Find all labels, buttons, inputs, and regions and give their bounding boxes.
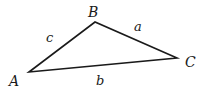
- vertex-label-c: C: [185, 54, 196, 70]
- triangle-diagram: A B C a b c: [0, 0, 202, 91]
- side-label-c: c: [46, 30, 54, 45]
- side-label-b: b: [96, 73, 104, 88]
- vertex-label-b: B: [87, 4, 98, 20]
- triangle-svg: A B C a b c: [0, 0, 202, 91]
- side-label-a: a: [134, 19, 142, 34]
- vertex-label-a: A: [7, 73, 19, 89]
